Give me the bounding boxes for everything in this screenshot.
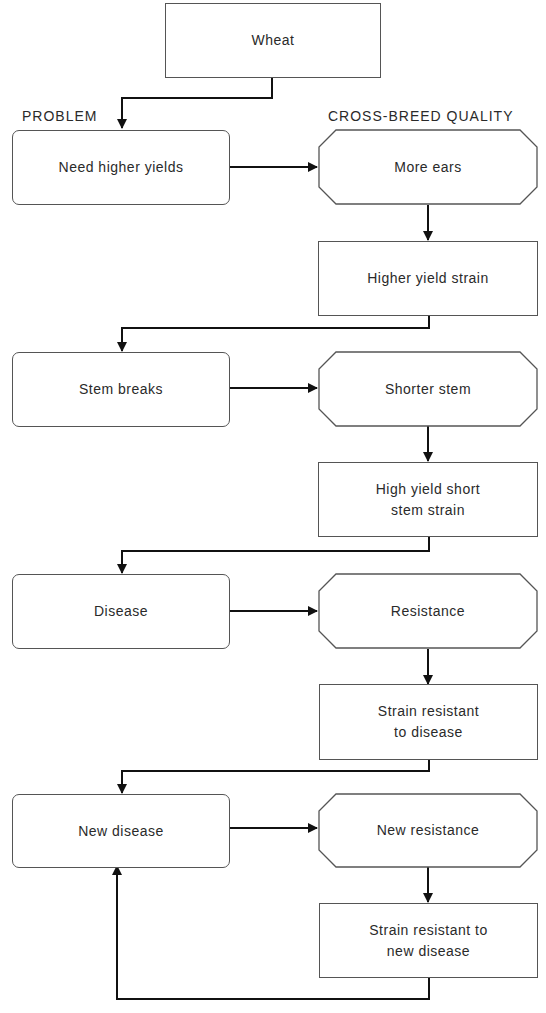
node-label: Resistance (391, 601, 465, 622)
column-header-problem: PROBLEM (22, 108, 97, 124)
problem-node-disease: Disease (12, 574, 230, 649)
quality-node-shorter-stem: Shorter stem (318, 351, 538, 427)
node-label: New disease (78, 821, 164, 842)
start-node-wheat: Wheat (165, 3, 381, 78)
node-label: More ears (394, 157, 462, 178)
strain-node-resistant-to-new-disease: Strain resistant to new disease (319, 903, 538, 978)
quality-node-more-ears: More ears (318, 129, 538, 205)
node-label: Strain resistant to new disease (369, 920, 487, 962)
node-label: Shorter stem (385, 379, 471, 400)
problem-node-stem-breaks: Stem breaks (12, 352, 230, 427)
problem-node-new-disease: New disease (12, 794, 230, 868)
strain-node-high-yield-short-stem: High yield short stem strain (318, 462, 538, 537)
node-label: Need higher yields (59, 157, 184, 178)
quality-node-resistance: Resistance (318, 573, 538, 649)
quality-node-new-resistance: New resistance (318, 793, 538, 868)
node-label: New resistance (377, 820, 480, 841)
node-label: Strain resistant to disease (378, 701, 479, 743)
node-label: Stem breaks (79, 379, 163, 400)
node-label: Higher yield strain (367, 268, 489, 289)
node-label: Disease (94, 601, 148, 622)
strain-node-resistant-to-disease: Strain resistant to disease (319, 684, 538, 760)
node-label: High yield short stem strain (376, 479, 481, 521)
column-header-cross-breed-quality: CROSS-BREED QUALITY (328, 108, 513, 124)
node-label: Wheat (252, 30, 295, 51)
strain-node-higher-yield: Higher yield strain (318, 241, 538, 316)
problem-node-need-higher-yields: Need higher yields (12, 130, 230, 205)
